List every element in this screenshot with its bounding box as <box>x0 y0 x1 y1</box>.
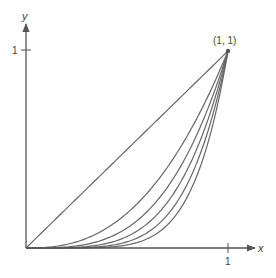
y-axis-label: y <box>21 10 29 22</box>
curve-1 <box>26 51 228 248</box>
endpoint-marker <box>226 49 230 53</box>
x-tick-label: 1 <box>225 256 231 267</box>
y-tick-label: 1 <box>12 45 18 56</box>
x-axis-label: x <box>257 242 264 254</box>
curve-group <box>26 51 228 248</box>
point-label: (1, 1) <box>213 35 236 46</box>
chart: x y 1 1 (1, 1) <box>0 0 276 278</box>
